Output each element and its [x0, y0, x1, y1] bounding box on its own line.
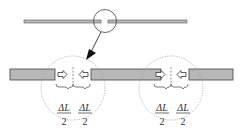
detail-view-left: ΔL 2 ΔL 2	[41, 56, 105, 127]
compress-arrow-right-icon	[58, 71, 67, 79]
brace-left-2	[73, 84, 90, 89]
diagram-canvas: ΔL 2 ΔL 2 ΔL 2 ΔL 2	[0, 0, 249, 133]
bottom-rod	[10, 69, 233, 80]
fraction-denominator: 2	[181, 116, 186, 127]
top-rod-left-segment	[24, 20, 101, 23]
bottom-rod-segment-1	[10, 69, 55, 80]
compress-arrow-left-icon	[79, 71, 88, 79]
top-rod-right-segment	[108, 20, 187, 23]
detail-circle-left	[41, 56, 105, 120]
fraction-denominator: 2	[62, 116, 67, 127]
brace-left-1	[56, 84, 73, 89]
top-rod	[24, 20, 187, 23]
fraction-denominator: 2	[83, 116, 88, 127]
bottom-rod-segment-2	[91, 69, 161, 80]
fraction-numerator: ΔL	[57, 102, 70, 113]
brace-right-2	[171, 84, 188, 89]
fraction-numerator: ΔL	[176, 102, 189, 113]
pointer-arrowhead-icon	[86, 49, 96, 60]
pointer-arrow-line	[91, 32, 101, 52]
detail-view-right: ΔL 2 ΔL 2	[139, 56, 203, 127]
compress-arrow-left-icon	[177, 71, 186, 79]
fraction-denominator: 2	[160, 116, 165, 127]
fraction-numerator: ΔL	[155, 102, 168, 113]
fraction-numerator: ΔL	[78, 102, 91, 113]
detail-circle-right	[139, 56, 203, 120]
bottom-rod-segment-3	[189, 69, 233, 80]
brace-right-1	[154, 84, 171, 89]
